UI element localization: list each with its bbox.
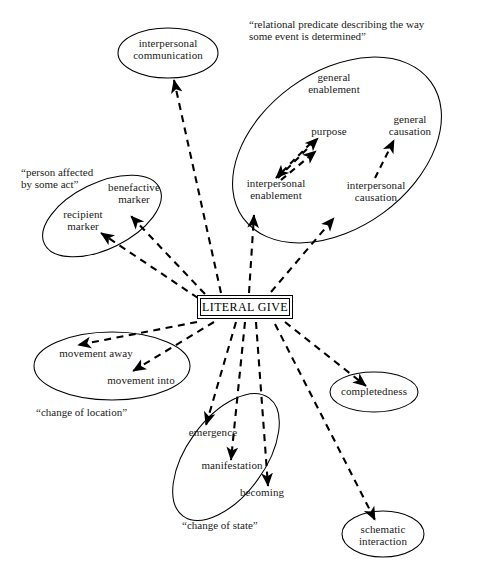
edge-to-recipient-marker <box>101 233 198 298</box>
edge-to-benefactive-marker <box>131 216 205 294</box>
node-interpersonal-enablement: interpersonal enablement <box>228 178 324 202</box>
node-schematic-interaction: schematic interaction <box>341 524 425 548</box>
caption-relational-predicate: “relational predicate describing the way… <box>249 18 479 43</box>
edge-to-manifestation <box>231 322 245 460</box>
edge-to-interpersonal-communication <box>174 80 221 293</box>
diagram-canvas: interpersonal communication general enab… <box>0 0 483 572</box>
node-becoming: becoming <box>228 487 296 499</box>
node-interpersonal-communication: interpersonal communication <box>118 38 218 62</box>
caption-change-of-state: “change of state” <box>182 519 322 531</box>
node-general-causation: general causation <box>375 114 445 138</box>
edge-to-interpersonal-causation <box>271 218 334 292</box>
node-recipient-marker: recipient marker <box>48 209 118 233</box>
node-purpose: purpose <box>303 126 355 138</box>
internal-edges <box>276 138 394 180</box>
caption-change-of-location: “change of location” <box>36 406 176 418</box>
edge-to-emergence <box>206 322 236 425</box>
edge-ipc-to-general-causation <box>375 140 394 178</box>
node-movement-away: movement away <box>46 348 146 360</box>
center-node-label: LITERAL GIVE <box>202 300 288 315</box>
node-completedness: completedness <box>330 386 418 398</box>
ellipse-change-of-location <box>34 332 190 400</box>
node-interpersonal-causation: interpersonal causation <box>330 180 422 204</box>
edge-to-movement-into <box>133 322 214 371</box>
center-node-literal-give[interactable]: LITERAL GIVE <box>197 295 293 319</box>
ellipse-change-of-state <box>152 375 301 539</box>
node-emergence: emergence <box>177 427 249 439</box>
node-general-enablement: general enablement <box>295 72 373 96</box>
node-manifestation: manifestation <box>190 460 274 472</box>
group-outlines <box>30 19 477 557</box>
edge-purpose-to-ipe <box>276 143 311 178</box>
caption-person-affected: “person affected by some act” <box>21 166 151 191</box>
edge-ipe-to-general-enablement <box>278 138 318 178</box>
node-movement-into: movement into <box>92 375 190 387</box>
edge-to-completedness <box>285 322 366 386</box>
ellipse-relational-predicate <box>197 19 476 282</box>
